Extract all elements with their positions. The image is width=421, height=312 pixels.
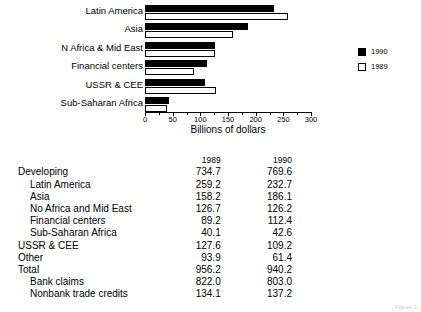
table-cell-1990: 61.4 bbox=[229, 252, 300, 264]
x-axis-tick-label: 100 bbox=[194, 116, 207, 124]
table-row: Developing734.7769.6 bbox=[0, 166, 300, 178]
table-body: Developing734.7769.6Latin America259.223… bbox=[0, 166, 300, 300]
table-col-header-1990: 1990 bbox=[229, 154, 300, 166]
table-row: Asia158.2186.1 bbox=[0, 191, 300, 203]
table-row: No Africa and Mid East126.7126.2 bbox=[0, 203, 300, 215]
x-axis-tick-label: 50 bbox=[168, 116, 176, 124]
table-head: 1989 1990 bbox=[0, 146, 300, 166]
x-axis-tick-label: 0 bbox=[143, 116, 147, 124]
table-cell-1989: 126.7 bbox=[157, 203, 228, 215]
chart-bar-1989 bbox=[145, 13, 288, 20]
x-axis-title: Billions of dollars bbox=[145, 124, 311, 136]
chart-category-label: Latin America bbox=[3, 6, 143, 16]
table-cell-1990: 940.2 bbox=[229, 264, 300, 276]
table-cell-1990: 42.6 bbox=[229, 227, 300, 239]
table-row: Total956.2940.2 bbox=[0, 264, 300, 276]
bar-chart-figure: Latin AmericaAsiaN Africa & Mid EastFina… bbox=[0, 0, 421, 136]
chart-bar-1990 bbox=[145, 79, 205, 86]
table-cell-1990: 112.4 bbox=[229, 215, 300, 227]
table-row: Latin America259.2232.7 bbox=[0, 178, 300, 190]
table-cell-1989: 259.2 bbox=[157, 178, 228, 190]
chart-category-label: Asia bbox=[3, 24, 143, 34]
x-axis-tick-label: 250 bbox=[277, 116, 290, 124]
table-cell-name: Asia bbox=[0, 191, 157, 203]
table-cell-1990: 109.2 bbox=[229, 239, 300, 251]
x-axis-tick-label: 300 bbox=[305, 116, 318, 124]
legend-swatch-1990-icon bbox=[358, 48, 366, 56]
chart-category-label: USSR & CEE bbox=[3, 80, 143, 90]
table-cell-1990: 126.2 bbox=[229, 203, 300, 215]
table-cell-name: Sub-Saharan Africa bbox=[0, 227, 157, 239]
chart-legend: 1990 1989 bbox=[358, 46, 416, 76]
chart-bar-1990 bbox=[145, 97, 169, 104]
chart-bar-1990 bbox=[145, 5, 274, 12]
table-cell-name: Other bbox=[0, 252, 157, 264]
table-row: Nonbank trade credits134.1137.2 bbox=[0, 288, 300, 300]
table-row: Other93.961.4 bbox=[0, 252, 300, 264]
chart-bar-1989 bbox=[145, 68, 194, 75]
x-axis-minor-tick bbox=[297, 112, 298, 115]
table-cell-1990: 186.1 bbox=[229, 191, 300, 203]
x-axis-minor-tick bbox=[159, 112, 160, 115]
table-cell-1989: 134.1 bbox=[157, 288, 228, 300]
table-cell-1989: 40.1 bbox=[157, 227, 228, 239]
table-row: Financial centers89.2112.4 bbox=[0, 215, 300, 227]
legend-item-1990: 1990 bbox=[358, 46, 416, 58]
table-row: USSR & CEE127.6109.2 bbox=[0, 239, 300, 251]
chart-bar-1989 bbox=[145, 31, 233, 38]
x-axis-tick-label: 150 bbox=[222, 116, 235, 124]
table-cell-1990: 769.6 bbox=[229, 166, 300, 178]
table-col-header-1989: 1989 bbox=[157, 154, 228, 166]
table-cell-name: Financial centers bbox=[0, 215, 157, 227]
table-row: Sub-Saharan Africa40.142.6 bbox=[0, 227, 300, 239]
chart-category-labels: Latin AmericaAsiaN Africa & Mid EastFina… bbox=[0, 0, 143, 112]
table-cell-1989: 93.9 bbox=[157, 252, 228, 264]
chart-bar-1989 bbox=[145, 50, 215, 57]
x-axis-minor-tick bbox=[214, 112, 215, 115]
chart-bar-1990 bbox=[145, 23, 248, 30]
external-debt-table: 1989 1990 Developing734.7769.6Latin Amer… bbox=[0, 146, 300, 300]
x-axis-minor-tick bbox=[187, 112, 188, 115]
table-cell-name: Latin America bbox=[0, 178, 157, 190]
table-cell-1990: 232.7 bbox=[229, 178, 300, 190]
table-cell-name: Developing bbox=[0, 166, 157, 178]
figure-caption: Figure 1 bbox=[395, 304, 417, 311]
table-cell-name: Nonbank trade credits bbox=[0, 288, 157, 300]
table-header-row: 1989 1990 bbox=[0, 154, 300, 166]
legend-label-1989: 1989 bbox=[371, 63, 388, 71]
table-cell-name: Total bbox=[0, 264, 157, 276]
chart-bar-1990 bbox=[145, 42, 215, 49]
table-cell-1989: 822.0 bbox=[157, 276, 228, 288]
table-cell-1990: 803.0 bbox=[229, 276, 300, 288]
x-axis-minor-tick bbox=[242, 112, 243, 115]
table-cell-name: Bank claims bbox=[0, 276, 157, 288]
table-col-header-name bbox=[0, 154, 157, 166]
chart-bar-1989 bbox=[145, 87, 216, 94]
table-row: Bank claims822.0803.0 bbox=[0, 276, 300, 288]
chart-category-label: Financial centers bbox=[3, 61, 143, 71]
x-axis-tick-label: 200 bbox=[249, 116, 262, 124]
legend-swatch-1989-icon bbox=[358, 63, 366, 71]
table-head-spacer bbox=[0, 146, 300, 154]
table-cell-1989: 956.2 bbox=[157, 264, 228, 276]
chart-plot-area bbox=[145, 0, 311, 112]
x-axis-minor-tick bbox=[270, 112, 271, 115]
table-cell-1989: 158.2 bbox=[157, 191, 228, 203]
table-cell-1989: 734.7 bbox=[157, 166, 228, 178]
chart-category-label: Sub-Saharan Africa bbox=[3, 98, 143, 108]
table-cell-1989: 127.6 bbox=[157, 239, 228, 251]
table-cell-1990: 137.2 bbox=[229, 288, 300, 300]
table-cell-name: USSR & CEE bbox=[0, 239, 157, 251]
table-cell-1989: 89.2 bbox=[157, 215, 228, 227]
chart-bar-1990 bbox=[145, 60, 207, 67]
chart-category-label: N Africa & Mid East bbox=[3, 43, 143, 53]
legend-label-1990: 1990 bbox=[371, 48, 388, 56]
table-cell-name: No Africa and Mid East bbox=[0, 203, 157, 215]
legend-item-1989: 1989 bbox=[358, 61, 416, 73]
chart-bar-1989 bbox=[145, 105, 167, 112]
